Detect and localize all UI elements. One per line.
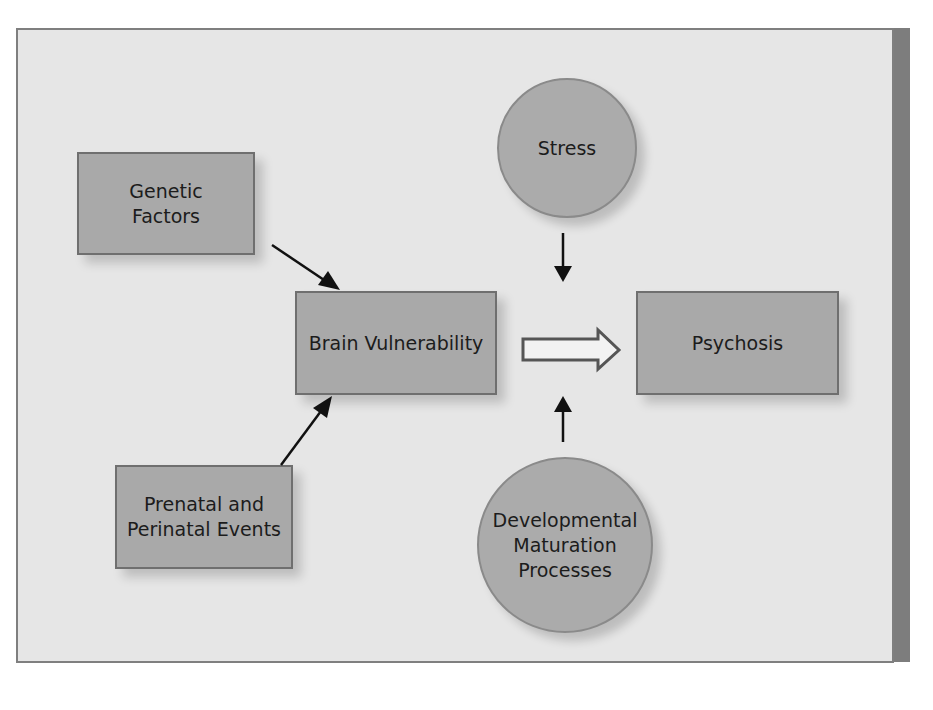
node-genetic-factors: Genetic Factors: [77, 152, 255, 255]
node-label: Psychosis: [692, 331, 783, 356]
node-label: Brain Vulnerability: [309, 331, 484, 356]
panel-side-strip: [894, 28, 910, 662]
node-brain-vulnerability: Brain Vulnerability: [295, 291, 497, 395]
node-label: Developmental Maturation Processes: [493, 508, 638, 583]
node-prenatal-perinatal-events: Prenatal and Perinatal Events: [115, 465, 293, 569]
node-label: Prenatal and Perinatal Events: [127, 492, 281, 542]
node-label: Genetic Factors: [129, 179, 202, 229]
node-label: Stress: [538, 136, 596, 161]
node-stress: Stress: [497, 78, 637, 218]
node-developmental-maturation-processes: Developmental Maturation Processes: [477, 457, 653, 633]
node-psychosis: Psychosis: [636, 291, 839, 395]
